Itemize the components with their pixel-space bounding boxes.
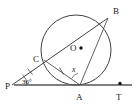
geometry-figure: P C B O A T 36° x — [0, 0, 137, 108]
point-marker-T — [118, 82, 121, 85]
point-label-B: B — [113, 6, 119, 16]
point-label-C: C — [33, 54, 39, 64]
angle-arc-at-A — [72, 73, 79, 78]
point-label-A: A — [76, 92, 83, 102]
center-point-marker-O — [79, 46, 82, 49]
point-label-P: P — [5, 81, 10, 91]
point-label-O: O — [70, 43, 77, 53]
point-label-T: T — [116, 92, 122, 102]
angle-label-at-A: x — [71, 65, 76, 74]
geometry-canvas: P C B O A T 36° x — [0, 0, 137, 108]
angle-label-at-P: 36° — [22, 78, 32, 86]
